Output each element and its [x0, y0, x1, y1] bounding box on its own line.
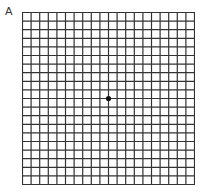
panel-label: A [5, 6, 13, 17]
center-fixation-dot [106, 96, 111, 101]
grid-lines [22, 12, 195, 185]
grid [22, 12, 195, 185]
